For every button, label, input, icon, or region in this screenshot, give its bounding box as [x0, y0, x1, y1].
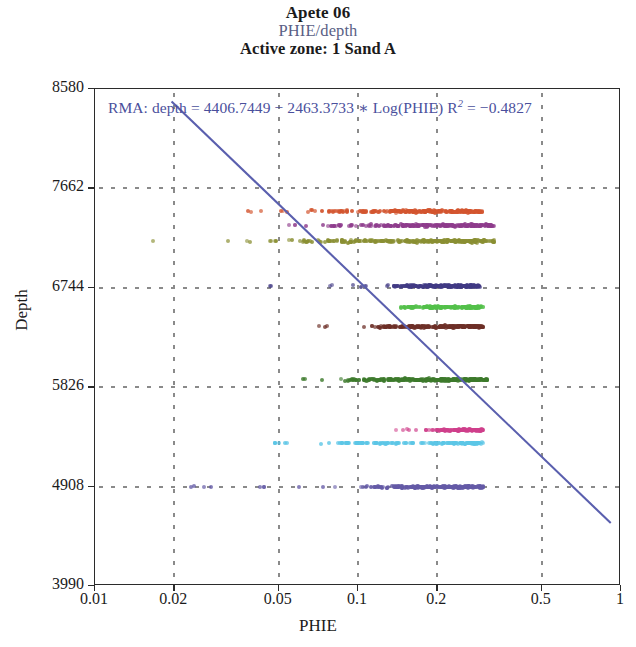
- y-tick-label: 5826: [14, 376, 84, 394]
- x-tick-label: 0.5: [506, 590, 576, 608]
- y-tick-mark: [88, 585, 94, 586]
- page-title: Apete 06: [0, 4, 636, 22]
- y-tick-mark: [88, 486, 94, 487]
- y-tick-mark: [88, 287, 94, 288]
- chart-figure: Apete 06 PHIE/depth Active zone: 1 Sand …: [0, 0, 636, 647]
- rma-equation-text: RMA: depth = 4406.7449 − 2463.3733 ∗ Log…: [108, 99, 458, 116]
- y-tick-label: 8580: [14, 78, 84, 96]
- y-tick-mark: [88, 386, 94, 387]
- y-tick-label: 3990: [14, 575, 84, 593]
- y-tick-mark: [88, 187, 94, 188]
- x-tick-label: 0.02: [138, 590, 208, 608]
- x-tick-label: 0.05: [243, 590, 313, 608]
- chart-subtitle: PHIE/depth: [0, 22, 636, 39]
- rma-equation-annotation: RMA: depth = 4406.7449 − 2463.3733 ∗ Log…: [108, 98, 532, 117]
- y-tick-label: 4908: [14, 476, 84, 494]
- y-tick-label: 7662: [14, 177, 84, 195]
- regression-line-layer: [95, 89, 619, 584]
- chart-zone-label: Active zone: 1 Sand A: [0, 40, 636, 57]
- rma-r-squared-value: = −0.4827: [463, 99, 532, 116]
- rma-fit-line: [172, 101, 611, 523]
- y-tick-mark: [88, 88, 94, 89]
- y-axis-title: Depth: [12, 270, 32, 350]
- plot-area: [94, 88, 620, 585]
- x-axis-title: PHIE: [0, 616, 636, 636]
- x-tick-label: 0.1: [322, 590, 392, 608]
- x-tick-label: 1: [585, 590, 636, 608]
- x-tick-label: 0.2: [401, 590, 471, 608]
- chart-title-block: Apete 06 PHIE/depth Active zone: 1 Sand …: [0, 4, 636, 57]
